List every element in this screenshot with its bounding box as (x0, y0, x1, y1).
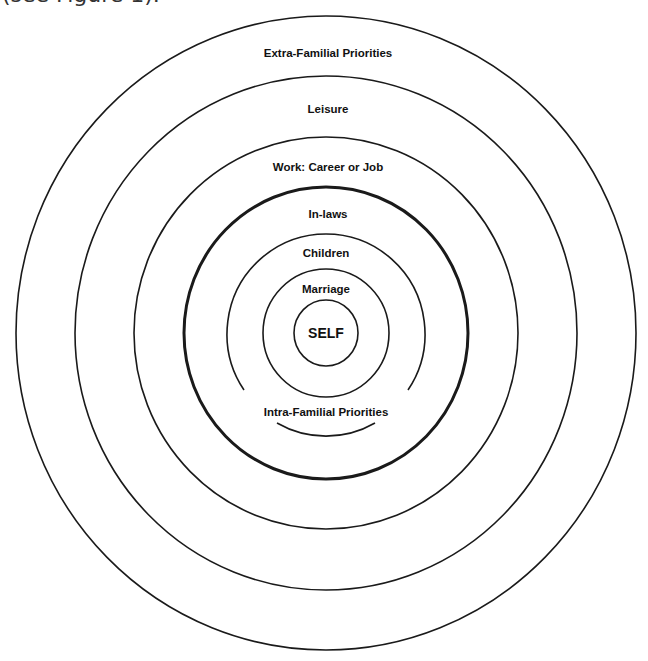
ring-children-lower-arc (277, 423, 375, 436)
label-in-laws: In-laws (309, 208, 348, 220)
label-work: Work: Career or Job (273, 161, 383, 173)
label-self: SELF (308, 325, 344, 341)
priorities-diagram: Extra-Familial Priorities Leisure Work: … (0, 0, 648, 661)
label-extra-familial: Extra-Familial Priorities (264, 47, 392, 59)
label-leisure: Leisure (308, 103, 349, 115)
label-marriage: Marriage (302, 283, 350, 295)
label-intra-familial: Intra-Familial Priorities (264, 406, 389, 418)
label-children: Children (303, 247, 350, 259)
